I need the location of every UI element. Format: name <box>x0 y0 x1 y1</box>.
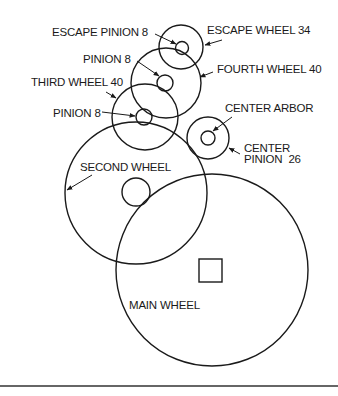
fourth-pinion-label: PINION 8 <box>83 53 131 65</box>
escape-pinion-leader <box>155 34 176 44</box>
fourth-pinion-circle <box>157 75 173 91</box>
fourth-wheel-leader <box>200 72 213 77</box>
center-arbor-circle <box>201 131 215 145</box>
fourth-pinion-leader <box>137 61 159 76</box>
third-wheel-leader <box>106 92 116 98</box>
escape-wheel-label: ESCAPE WHEEL 34 <box>207 24 310 36</box>
second-wheel-label: SECOND WHEEL <box>80 161 171 173</box>
third-wheel-circle <box>112 84 178 150</box>
main-wheel-label: MAIN WHEEL <box>129 299 200 311</box>
third-wheel-label: THIRD WHEEL 40 <box>31 76 123 88</box>
center-arbor-label: CENTER ARBOR <box>225 102 313 114</box>
escape-wheel-circle <box>159 25 203 69</box>
escape-wheel-leader <box>205 40 222 45</box>
gear-train-diagram <box>0 0 338 396</box>
escape-pinion-label: ESCAPE PINION 8 <box>52 26 148 38</box>
fourth-wheel-circle <box>131 48 201 118</box>
fourth-wheel-label: FOURTH WHEEL 40 <box>217 63 321 75</box>
second-wheel-leader <box>67 175 92 190</box>
second-wheel-circle <box>65 122 207 264</box>
center-pinion-label-line2: PINION 26 <box>244 153 301 165</box>
main-wheel-arbor-square <box>199 259 222 282</box>
third-pinion-label: PINION 8 <box>53 107 101 119</box>
center-pinion-leader <box>229 148 240 154</box>
third-pinion-leader <box>102 112 135 116</box>
second-pinion-circle <box>122 178 150 206</box>
